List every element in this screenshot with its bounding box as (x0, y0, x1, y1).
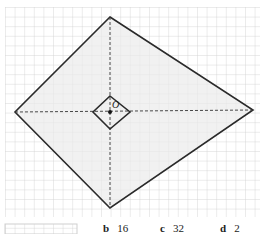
answer-d: d2 (220, 222, 240, 234)
kite-diagram: O (0, 0, 260, 234)
answer-b: b16 (103, 222, 128, 234)
answer-c: c32 (160, 222, 184, 234)
answer-box-grid (5, 224, 77, 234)
center-point (108, 110, 112, 114)
center-label: O (112, 99, 119, 110)
